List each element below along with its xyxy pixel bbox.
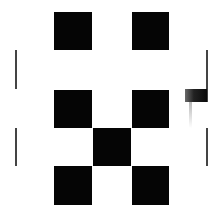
position-marker[interactable] <box>185 89 207 102</box>
board-square-r2c3[interactable] <box>132 90 169 128</box>
right-edge-line <box>206 128 208 166</box>
marker-smudge <box>189 102 192 128</box>
left-edge-line <box>15 50 17 89</box>
board-square-r4c3[interactable] <box>132 166 169 205</box>
board-square-r1c1[interactable] <box>54 12 92 50</box>
board-square-r1c3[interactable] <box>132 12 169 50</box>
board-square-r4c1[interactable] <box>54 166 92 205</box>
board-square-r3c2[interactable] <box>93 128 131 166</box>
board-square-r2c1[interactable] <box>54 90 92 128</box>
left-edge-line <box>15 128 17 166</box>
